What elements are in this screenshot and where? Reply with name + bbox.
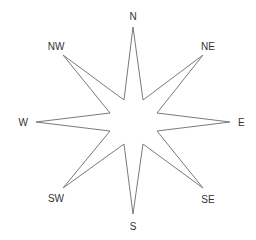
direction-label-ne: NE: [201, 41, 215, 52]
compass-rose-diagram: NNEESESSWWNW: [0, 0, 256, 240]
direction-label-n: N: [129, 11, 136, 22]
direction-label-nw: NW: [48, 41, 65, 52]
compass-star-shape: [36, 27, 230, 214]
direction-label-se: SE: [201, 194, 215, 205]
direction-label-e: E: [238, 117, 245, 128]
direction-label-sw: SW: [48, 193, 65, 204]
direction-label-w: W: [19, 117, 29, 128]
direction-label-s: S: [130, 221, 137, 232]
